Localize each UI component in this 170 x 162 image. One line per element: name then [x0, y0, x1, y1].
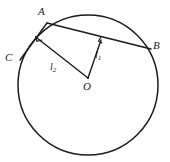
chord-ac — [20, 23, 47, 60]
segment-label-l1-subscript: 1 — [98, 54, 102, 62]
perpendicular-segment-l2 — [37, 38, 88, 78]
point-label-o: O — [83, 81, 91, 92]
segment-label-l1: l1 — [95, 50, 101, 62]
segment-label-l2: l2 — [50, 62, 56, 74]
point-label-c: C — [5, 52, 12, 63]
geometry-figure: A B C O l1 l2 — [0, 0, 170, 162]
center-point-o — [87, 77, 89, 79]
point-label-b: B — [153, 40, 160, 51]
point-label-a: A — [38, 6, 45, 17]
segment-label-l2-subscript: 2 — [53, 66, 57, 74]
